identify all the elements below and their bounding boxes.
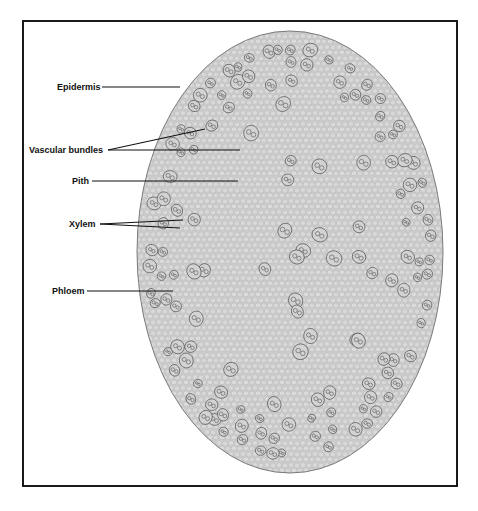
vascular-bundle-icon <box>234 63 242 72</box>
vascular-bundle-icon <box>243 125 259 141</box>
vascular-bundle-icon <box>255 446 266 456</box>
vascular-bundle-icon <box>286 56 296 67</box>
stem-cross-section <box>0 0 478 511</box>
vascular-bundle-icon <box>425 255 434 265</box>
vascular-bundle-icon <box>166 138 180 151</box>
vascular-bundle-icon <box>218 91 226 100</box>
vascular-bundle-icon <box>340 93 349 102</box>
epidermis-outline <box>137 31 443 473</box>
label-xylem: Xylem <box>69 219 96 229</box>
label-pith: Pith <box>72 176 89 186</box>
diagram-stage: Epidermis Vascular bundles Pith Xylem Ph… <box>0 0 478 511</box>
label-phloem: Phloem <box>52 286 85 296</box>
vascular-bundle-icon <box>360 404 368 412</box>
vascular-bundle-icon <box>423 214 433 225</box>
vascular-bundle-icon <box>398 283 410 297</box>
vascular-bundle-icon <box>177 148 186 157</box>
vascular-bundle-icon <box>357 155 371 170</box>
label-epidermis: Epidermis <box>57 82 101 92</box>
vascular-bundle-icon <box>157 192 170 206</box>
label-vascular-bundles: Vascular bundles <box>29 145 103 155</box>
vascular-bundle-icon <box>188 213 201 226</box>
vascular-bundle-icon <box>282 418 296 432</box>
vascular-bundle-icon <box>364 391 377 404</box>
